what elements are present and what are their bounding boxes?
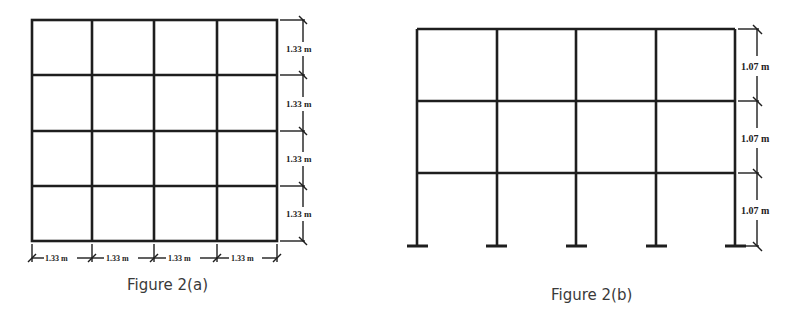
dimension-label: 1.33 m [168,254,191,263]
figure-a-caption: Figure 2(a) [127,276,208,294]
dimension-label: 1.07 m [741,205,770,216]
figure-b-frame [417,29,735,246]
figure-b-vertical-labels: 1.07 m 1.07 m 1.07 m [741,61,770,216]
figure-a-grid [32,20,277,241]
dimension-label: 1.33 m [286,209,312,219]
diagram-canvas: 1.33 m 1.33 m 1.33 m 1.33 m 1.33 m 1.33 … [0,0,799,321]
dimension-label: 1.33 m [45,254,68,263]
figure-b-caption: Figure 2(b) [551,286,632,304]
dimension-label: 1.07 m [741,133,770,144]
dimension-label: 1.07 m [741,61,770,72]
dimension-label: 1.33 m [231,254,254,263]
dimension-label: 1.33 m [106,254,129,263]
dimension-label: 1.33 m [286,44,312,54]
dimension-label: 1.33 m [286,99,312,109]
dimension-label: 1.33 m [286,154,312,164]
